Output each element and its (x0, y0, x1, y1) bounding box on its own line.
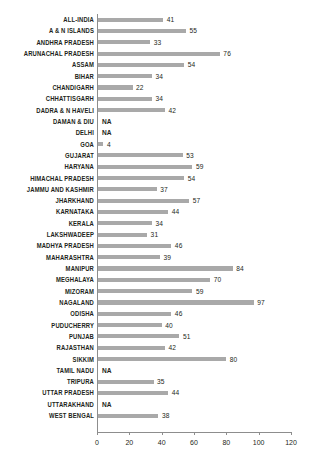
value-label: 84 (236, 265, 244, 272)
chart-row: MEGHALAYA70 (0, 274, 312, 285)
x-axis-ticks (97, 432, 291, 436)
chart-row: A & N ISLANDS55 (0, 25, 312, 36)
bar-area: NA (97, 399, 312, 410)
chart-row: SIKKIM80 (0, 353, 312, 364)
x-tick-label: 120 (285, 438, 297, 447)
category-label: RAJASTHAN (8, 344, 94, 351)
bar (97, 414, 158, 418)
bar (97, 165, 192, 169)
x-tick (226, 432, 227, 435)
category-label: TRIPURA (8, 378, 94, 385)
bar-area: 97 (97, 297, 312, 308)
bar (97, 97, 152, 101)
bar (97, 153, 183, 157)
category-label: LAKSHWADEEP (8, 231, 94, 238)
value-label: 97 (257, 299, 265, 306)
value-label: 34 (155, 95, 163, 102)
value-label: 46 (175, 310, 183, 317)
value-label: 33 (154, 39, 162, 46)
bar (97, 244, 171, 248)
bar-area: 4 (97, 138, 312, 149)
category-label: ASSAM (8, 61, 94, 68)
x-tick (291, 432, 292, 435)
chart-row: RAJASTHAN42 (0, 342, 312, 353)
chart-row: ARUNACHAL PRADESH76 (0, 48, 312, 59)
category-label: GUJARAT (8, 152, 94, 159)
category-label: DAMAN & DIU (8, 118, 94, 125)
chart-row: UTTARAKHANDNA (0, 399, 312, 410)
value-label: 80 (230, 356, 238, 363)
bar-area: 51 (97, 331, 312, 342)
value-label: 54 (188, 175, 196, 182)
bar (97, 380, 154, 384)
value-label: 44 (172, 389, 180, 396)
chart-rows: ALL-INDIA41A & N ISLANDS55ANDHRA PRADESH… (0, 14, 312, 421)
bar-area: 54 (97, 59, 312, 70)
chart-row: HIMACHAL PRADESH54 (0, 172, 312, 183)
x-tick-label: 0 (95, 438, 99, 447)
chart-row: BIHAR34 (0, 71, 312, 82)
bar-area: 42 (97, 342, 312, 353)
category-label: MANIPUR (8, 265, 94, 272)
bar-area: 31 (97, 229, 312, 240)
category-label: JAMMU AND KASHMIR (8, 186, 94, 193)
bar (97, 29, 186, 33)
value-label: 70 (214, 276, 222, 283)
bar (97, 289, 192, 293)
bar-area: 46 (97, 240, 312, 251)
bar-area: 57 (97, 195, 312, 206)
chart-row: MIZORAM59 (0, 286, 312, 297)
value-label: 57 (193, 197, 201, 204)
category-label: TAMIL NADU (8, 367, 94, 374)
x-tick-label: 20 (125, 438, 133, 447)
bar-area: 80 (97, 353, 312, 364)
category-label: MEGHALAYA (8, 276, 94, 283)
bar (97, 176, 184, 180)
value-label: 37 (160, 186, 168, 193)
bar-area: 84 (97, 263, 312, 274)
category-label: KERALA (8, 220, 94, 227)
bar (97, 278, 210, 282)
chart-row: KERALA34 (0, 218, 312, 229)
category-label: ALL-INDIA (8, 16, 94, 23)
category-label: HARYANA (8, 163, 94, 170)
bar (97, 74, 152, 78)
x-tick-label: 40 (158, 438, 166, 447)
bar-area: 41 (97, 14, 312, 25)
x-tick-label: 60 (190, 438, 198, 447)
bar (97, 199, 189, 203)
x-axis-tick-labels: 020406080100120 (0, 438, 312, 450)
value-label: 39 (164, 254, 172, 261)
bar (97, 391, 168, 395)
bar (97, 312, 171, 316)
value-label: 54 (188, 61, 196, 68)
chart-row: LAKSHWADEEP31 (0, 229, 312, 240)
chart-row: NAGALAND97 (0, 297, 312, 308)
bar-area: 22 (97, 82, 312, 93)
value-label-na: NA (102, 118, 112, 125)
chart-row: ODISHA46 (0, 308, 312, 319)
category-label: UTTAR PRADESH (8, 389, 94, 396)
value-label: 31 (151, 231, 159, 238)
chart-row: MADHYA PRADESH46 (0, 240, 312, 251)
value-label: 59 (196, 288, 204, 295)
bar-area: 33 (97, 37, 312, 48)
category-label: PUNJAB (8, 333, 94, 340)
value-label: 35 (157, 378, 165, 385)
bar (97, 266, 233, 270)
category-label: ARUNACHAL PRADESH (8, 50, 94, 57)
bar-area: 37 (97, 184, 312, 195)
chart-row: ANDHRA PRADESH33 (0, 37, 312, 48)
value-label: 46 (175, 242, 183, 249)
value-label: 76 (223, 50, 231, 57)
category-label: KARNATAKA (8, 208, 94, 215)
value-label: 51 (183, 333, 191, 340)
bar (97, 40, 150, 44)
chart-row: DELHINA (0, 127, 312, 138)
category-label: A & N ISLANDS (8, 27, 94, 34)
chart-row: ASSAM54 (0, 59, 312, 70)
category-label: ANDHRA PRADESH (8, 39, 94, 46)
chart-row: GUJARAT53 (0, 150, 312, 161)
category-label: NAGALAND (8, 299, 94, 306)
category-label: MIZORAM (8, 288, 94, 295)
